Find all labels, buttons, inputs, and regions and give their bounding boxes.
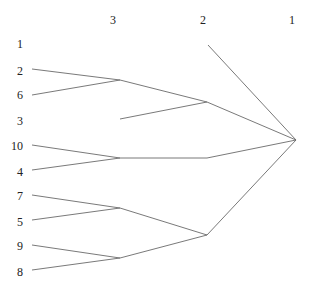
level-header: 3 <box>110 14 116 26</box>
level-header: 2 <box>200 14 206 26</box>
tree-edge <box>32 245 120 258</box>
level-header: 1 <box>289 14 295 26</box>
leaf-label: 2 <box>17 65 23 77</box>
tree-edge <box>208 45 296 140</box>
tree-edge <box>207 140 296 235</box>
cluster-tree-diagram: 321 12631047598 <box>0 0 318 290</box>
tree-edge <box>120 208 207 235</box>
leaf-label: 3 <box>17 115 23 127</box>
leaf-label: 6 <box>17 89 23 101</box>
tree-edge <box>120 80 207 102</box>
leaf-label: 9 <box>17 240 23 252</box>
leaf-label: 10 <box>11 140 23 152</box>
tree-edge <box>120 102 207 119</box>
tree-edge <box>32 80 120 95</box>
tree-edge <box>120 235 207 258</box>
tree-edge <box>32 158 120 170</box>
leaf-label: 4 <box>17 166 23 178</box>
leaf-label: 7 <box>17 190 23 202</box>
tree-edge <box>32 195 120 208</box>
tree-edge <box>207 140 296 158</box>
tree-edge <box>32 208 120 220</box>
tree-edge <box>32 258 120 270</box>
tree-edge <box>32 69 120 80</box>
tree-edge <box>207 102 296 140</box>
leaf-label: 1 <box>17 38 23 50</box>
tree-edge <box>32 145 120 158</box>
tree-edges <box>0 0 318 290</box>
leaf-label: 5 <box>17 216 23 228</box>
leaf-label: 8 <box>17 266 23 278</box>
